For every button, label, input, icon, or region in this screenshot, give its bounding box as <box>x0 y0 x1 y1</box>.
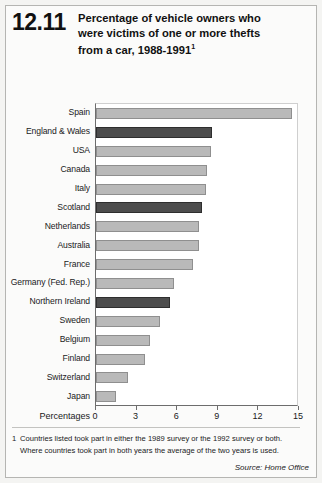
bar <box>96 335 150 346</box>
figure-number: 12.11 <box>12 10 78 34</box>
bar-series <box>96 104 297 405</box>
figure-page: 12.11 Percentage of vehicle owners who w… <box>0 0 322 483</box>
figure-title-line-1: Percentage of vehicle owners who <box>78 11 261 26</box>
figure-title-line-3: from a car, 1988-19911 <box>78 42 261 58</box>
bar <box>96 372 128 383</box>
bar-row <box>96 274 297 293</box>
figure-title-footnote-marker: 1 <box>191 43 195 50</box>
bar-row <box>96 236 297 255</box>
bar <box>96 165 207 176</box>
bar-row <box>96 104 297 123</box>
bar-row <box>96 198 297 217</box>
x-axis-tick-label: 15 <box>293 411 303 421</box>
bar <box>96 391 116 402</box>
x-axis-tick <box>298 406 299 410</box>
bar-chart: SpainEngland & WalesUSACanadaItalyScotla… <box>0 98 312 428</box>
category-label: Japan <box>0 386 93 405</box>
category-label: Northern Ireland <box>0 292 93 311</box>
x-axis-tick <box>257 406 258 410</box>
category-label: Australia <box>0 235 93 254</box>
source-note: Source: Home Office <box>235 463 309 472</box>
bar-row <box>96 368 297 387</box>
figure-title-line-2: were victims of one or more thefts <box>78 26 261 41</box>
category-label: Scotland <box>0 197 93 216</box>
x-axis-tick-label: 6 <box>174 411 179 421</box>
category-label: England & Wales <box>0 122 93 141</box>
category-label: Belgium <box>0 330 93 349</box>
bar-row <box>96 180 297 199</box>
category-label: Italy <box>0 179 93 198</box>
bar-row <box>96 293 297 312</box>
bar <box>96 184 206 195</box>
bar-row <box>96 387 297 406</box>
x-axis-tick <box>136 406 137 410</box>
figure-header: 12.11 Percentage of vehicle owners who w… <box>12 10 304 58</box>
bar <box>96 316 160 327</box>
x-axis-tick <box>217 406 218 410</box>
bar <box>96 108 292 119</box>
category-label: Switzerland <box>0 367 93 386</box>
x-axis-tick <box>95 406 96 410</box>
bar-row <box>96 217 297 236</box>
bar <box>96 259 193 270</box>
bar-row <box>96 142 297 161</box>
bar <box>96 202 202 213</box>
figure-title-line-3-text: from a car, 1988-1991 <box>78 43 191 55</box>
category-label: Canada <box>0 160 93 179</box>
category-label: Spain <box>0 103 93 122</box>
bar <box>96 127 212 138</box>
category-label: USA <box>0 141 93 160</box>
bar-row <box>96 331 297 350</box>
bar <box>96 297 170 308</box>
footnote: 1Countries listed took part in either th… <box>12 433 302 457</box>
bar-row <box>96 123 297 142</box>
x-axis: 03691215 <box>95 406 298 426</box>
bar <box>96 146 211 157</box>
figure-title: Percentage of vehicle owners who were vi… <box>78 10 261 58</box>
bar <box>96 354 145 365</box>
x-axis-tick-label: 3 <box>133 411 138 421</box>
x-axis-tick-label: 12 <box>252 411 262 421</box>
footnote-marker: 1 <box>12 433 20 445</box>
footnote-line-1: Countries listed took part in either the… <box>20 434 282 443</box>
bar <box>96 240 199 251</box>
footnote-divider <box>12 427 300 428</box>
plot-area <box>95 103 298 406</box>
footnote-line-2: Where countries took part in both years … <box>12 445 302 457</box>
x-axis-tick-label: 9 <box>214 411 219 421</box>
x-axis-tick-label: 0 <box>92 411 97 421</box>
category-label: Sweden <box>0 311 93 330</box>
bar-row <box>96 312 297 331</box>
bar-row <box>96 350 297 369</box>
category-label: France <box>0 254 93 273</box>
category-label: Netherlands <box>0 216 93 235</box>
bar-row <box>96 161 297 180</box>
bar <box>96 278 174 289</box>
bar-row <box>96 255 297 274</box>
category-label: Finland <box>0 349 93 368</box>
category-axis-labels: SpainEngland & WalesUSACanadaItalyScotla… <box>0 103 93 406</box>
x-axis-tick <box>176 406 177 410</box>
bar <box>96 221 199 232</box>
x-axis-title: Percentages <box>0 411 90 421</box>
category-label: Germany (Fed. Rep.) <box>0 273 93 292</box>
